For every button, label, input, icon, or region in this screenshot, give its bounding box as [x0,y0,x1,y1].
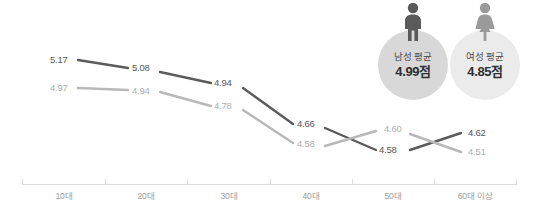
female-average-label: 여성 평균 [466,52,503,62]
data-label-male-10s: 5.17 [50,55,68,65]
data-label-female-20s: 4.94 [132,86,150,96]
female-average-value: 4.85점 [467,65,502,78]
x-axis-label-30s: 30대 [199,192,259,201]
data-label-male-20s: 5.08 [132,63,150,73]
x-axis-label-50s: 50대 [363,192,423,201]
x-axis-label-10s: 10대 [34,192,94,201]
data-label-male-50s: 4.58 [379,145,397,155]
data-label-female-50s: 4.60 [384,124,402,134]
chart-container: 5.17 5.08 4.94 4.66 4.58 4.62 4.97 4.94 … [0,0,540,219]
x-axis-label-40s: 40대 [281,192,341,201]
data-label-female-40s: 4.58 [297,139,315,149]
male-average-value: 4.99점 [395,65,430,78]
data-label-male-60s: 4.62 [468,128,486,138]
data-label-male-40s: 4.66 [297,119,315,129]
data-label-female-30s: 4.78 [214,101,232,111]
male-person-icon [400,2,426,42]
data-label-male-30s: 4.94 [214,78,232,88]
data-label-female-10s: 4.97 [50,83,68,93]
female-person-icon [472,2,498,42]
male-average-label: 남성 평균 [394,52,431,62]
x-axis-label-20s: 20대 [116,192,176,201]
line-chart-plot [0,0,540,219]
x-axis-label-60s-plus: 60대 이상 [445,192,505,201]
data-label-female-60s: 4.51 [468,147,486,157]
